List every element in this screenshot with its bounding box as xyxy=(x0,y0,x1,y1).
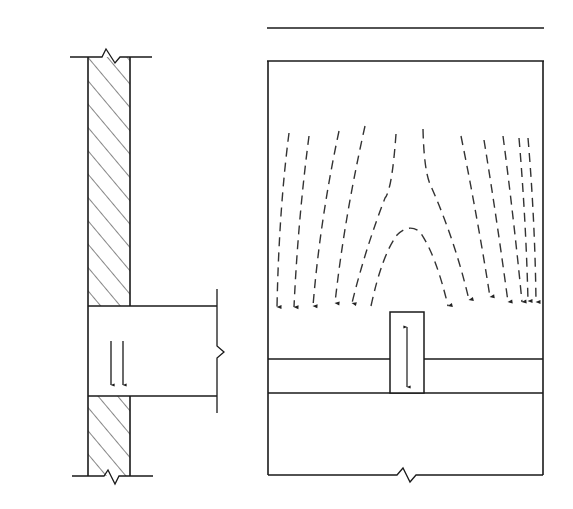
left-wall-section xyxy=(0,0,224,484)
stress-flow-lines xyxy=(277,126,536,307)
diagram-canvas xyxy=(0,0,573,509)
upper-wall-hatch xyxy=(88,57,130,306)
lower-wall-hatch xyxy=(88,396,130,476)
beam xyxy=(88,289,224,413)
right-stress-diagram xyxy=(0,0,544,482)
bottom-break-line-right xyxy=(268,468,543,482)
beam-break-line xyxy=(217,289,224,413)
